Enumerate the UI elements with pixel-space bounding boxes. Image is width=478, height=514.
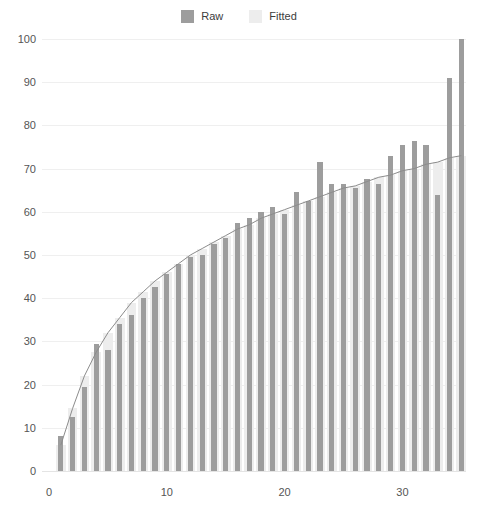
legend-label-fitted: Fitted: [269, 10, 297, 23]
square-swatch-icon: [249, 10, 262, 23]
legend-label-raw: Raw: [201, 10, 223, 23]
square-swatch-icon: [181, 10, 194, 23]
fit-curve: [42, 39, 466, 471]
x-axis-tick-labels: 0102030: [0, 486, 478, 506]
y-axis-tick-label: 80: [24, 119, 36, 131]
x-axis-tick-label: 30: [396, 486, 408, 498]
y-axis-tick-label: 50: [24, 249, 36, 261]
y-axis-tick-label: 60: [24, 206, 36, 218]
x-axis-tick-label: 20: [278, 486, 290, 498]
y-axis-tick-labels: 0102030405060708090100: [0, 39, 36, 471]
y-axis-tick-label: 40: [24, 292, 36, 304]
x-axis-line: [42, 471, 466, 472]
y-axis-tick-label: 100: [18, 33, 36, 45]
y-axis-tick-label: 70: [24, 163, 36, 175]
y-axis-tick-label: 0: [30, 465, 36, 477]
chart-container: Raw Fitted 0102030405060708090100 010203…: [0, 0, 478, 514]
y-axis-tick-label: 10: [24, 422, 36, 434]
fit-curve-path: [61, 156, 461, 445]
chart-legend: Raw Fitted: [0, 6, 478, 26]
x-axis-tick-label: 10: [161, 486, 173, 498]
y-axis-tick-label: 20: [24, 379, 36, 391]
y-axis-tick-label: 30: [24, 335, 36, 347]
y-axis-tick-label: 90: [24, 76, 36, 88]
legend-item-fitted[interactable]: Fitted: [249, 10, 297, 23]
legend-item-raw[interactable]: Raw: [181, 10, 223, 23]
x-axis-tick-label: 0: [46, 486, 52, 498]
